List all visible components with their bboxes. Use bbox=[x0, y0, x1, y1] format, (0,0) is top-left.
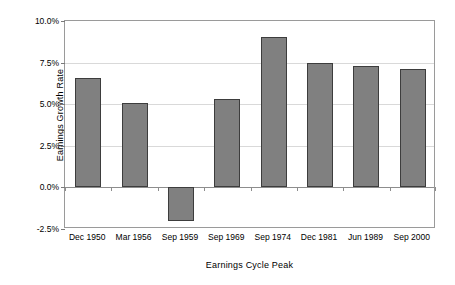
x-axis-tick-mark bbox=[251, 187, 252, 191]
x-axis-tick-mark bbox=[343, 187, 344, 191]
y-axis-tick-label: -2.5% bbox=[37, 225, 59, 234]
x-axis-tick-label: Sep 1959 bbox=[157, 232, 203, 242]
bar-chart-figure: Earnings Growth Rate 10.0%7.5%5.0%2.5%0.… bbox=[0, 0, 455, 285]
y-axis-tick-mark bbox=[61, 21, 65, 22]
bar bbox=[75, 78, 101, 188]
y-axis-tick-label: 0.0% bbox=[40, 183, 59, 192]
bar bbox=[168, 187, 194, 220]
gridline bbox=[65, 63, 434, 64]
y-axis-tick-label: 2.5% bbox=[40, 142, 59, 151]
x-axis-tick-label: Dec 1981 bbox=[296, 232, 342, 242]
y-axis-tick-label: 10.0% bbox=[35, 17, 59, 26]
x-axis-title: Earnings Cycle Peak bbox=[64, 260, 435, 270]
x-axis-tick-label: Dec 1950 bbox=[64, 232, 110, 242]
x-axis-tick-mark bbox=[65, 187, 66, 191]
bar bbox=[122, 103, 148, 188]
bar bbox=[400, 69, 426, 187]
y-axis-tick-mark bbox=[61, 146, 65, 147]
x-axis-tick-label: Sep 2000 bbox=[389, 232, 435, 242]
x-axis-tick-label: Sep 1969 bbox=[203, 232, 249, 242]
zero-baseline bbox=[65, 187, 434, 188]
x-axis-tick-label: Mar 1956 bbox=[110, 232, 156, 242]
plot-area: 10.0%7.5%5.0%2.5%0.0%-2.5% bbox=[64, 20, 435, 228]
x-axis-tick-mark bbox=[111, 187, 112, 191]
y-axis-tick-label: 7.5% bbox=[40, 58, 59, 67]
bar bbox=[214, 99, 240, 187]
bar bbox=[353, 66, 379, 187]
x-axis-tick-mark bbox=[158, 187, 159, 191]
y-axis-tick-mark bbox=[61, 104, 65, 105]
bar bbox=[307, 63, 333, 187]
x-axis-tick-mark bbox=[435, 187, 436, 191]
x-axis-tick-mark bbox=[390, 187, 391, 191]
x-axis-tick-mark bbox=[297, 187, 298, 191]
x-axis-tick-label: Jun 1989 bbox=[342, 232, 388, 242]
y-axis-tick-mark bbox=[61, 63, 65, 64]
y-axis-tick-label: 5.0% bbox=[40, 100, 59, 109]
x-axis-tick-mark bbox=[204, 187, 205, 191]
x-axis-tick-label: Sep 1974 bbox=[250, 232, 296, 242]
bar bbox=[261, 37, 287, 188]
y-axis-tick-mark bbox=[61, 229, 65, 230]
